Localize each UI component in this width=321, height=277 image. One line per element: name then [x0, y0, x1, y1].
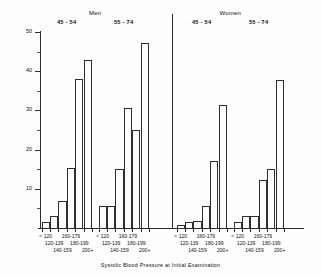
- bar: [84, 60, 92, 228]
- x-tick-label: 180-199: [258, 241, 284, 246]
- x-tick: [259, 228, 260, 232]
- bar: [115, 169, 123, 228]
- y-tick-30: [35, 110, 40, 111]
- x-tick: [75, 228, 76, 232]
- x-tick-label: 200+: [267, 248, 293, 253]
- y-tick-minor-25: [37, 130, 40, 131]
- bar: [58, 201, 66, 228]
- panel-divider: [172, 14, 173, 228]
- x-tick: [149, 228, 150, 232]
- x-tick: [234, 228, 235, 232]
- bar: [50, 216, 58, 228]
- x-tick-label: 140-159: [185, 248, 211, 253]
- x-tick-label: < 120: [225, 234, 251, 239]
- bar: [242, 216, 250, 228]
- x-tick: [107, 228, 108, 232]
- bar: [250, 216, 258, 228]
- x-tick: [267, 228, 268, 232]
- x-tick: [42, 228, 43, 232]
- bar: [219, 105, 227, 228]
- x-tick: [99, 228, 100, 232]
- y-tick-label-50: 50: [18, 29, 32, 34]
- age-group-men-55-74: 55 - 74: [104, 19, 144, 25]
- bar: [267, 169, 275, 228]
- y-tick-20: [35, 150, 40, 151]
- x-tick-label: < 120: [168, 234, 194, 239]
- x-tick: [67, 228, 68, 232]
- x-tick-label: 120-139: [98, 241, 124, 246]
- x-tick: [124, 228, 125, 232]
- x-tick: [58, 228, 59, 232]
- x-tick: [141, 228, 142, 232]
- x-tick-label: 140-159: [107, 248, 133, 253]
- x-tick-label: 120-139: [41, 241, 67, 246]
- x-tick-label: 160-179: [193, 234, 219, 239]
- x-tick-label: 120-139: [176, 241, 202, 246]
- bar: [42, 222, 50, 228]
- y-tick-minor-45: [37, 52, 40, 53]
- x-tick: [115, 228, 116, 232]
- x-tick-label: 120-139: [233, 241, 259, 246]
- x-tick: [177, 228, 178, 232]
- panel-title-women: Women: [205, 10, 255, 16]
- chart-figure: Men Women 45 - 54 55 - 74 45 - 54 55 - 7…: [0, 0, 321, 277]
- bar: [234, 222, 242, 228]
- bar: [75, 79, 83, 228]
- x-tick-label: 180-199: [66, 241, 92, 246]
- x-tick: [84, 228, 85, 232]
- x-tick-label: 200+: [75, 248, 101, 253]
- bar: [141, 43, 149, 228]
- bar: [210, 161, 218, 228]
- x-tick: [132, 228, 133, 232]
- x-tick: [219, 228, 220, 232]
- x-tick: [227, 228, 228, 232]
- x-tick-label: 180-199: [201, 241, 227, 246]
- panel-title-men: Men: [70, 10, 120, 16]
- x-tick: [185, 228, 186, 232]
- x-tick: [202, 228, 203, 232]
- x-tick-label: 160-179: [58, 234, 84, 239]
- x-tick: [250, 228, 251, 232]
- y-tick-minor-5: [37, 208, 40, 209]
- y-tick-40: [35, 71, 40, 72]
- bar: [107, 206, 115, 228]
- y-tick-label-10: 10: [18, 186, 32, 191]
- x-tick: [193, 228, 194, 232]
- y-axis-line: [40, 31, 41, 228]
- y-tick-label-40: 40: [18, 68, 32, 73]
- bar: [132, 130, 140, 228]
- bar: [99, 206, 107, 228]
- x-tick: [284, 228, 285, 232]
- x-tick-label: 200+: [210, 248, 236, 253]
- x-tick-label: 200+: [132, 248, 158, 253]
- bar: [185, 222, 193, 228]
- bar: [259, 180, 267, 228]
- x-tick-label: 160-179: [115, 234, 141, 239]
- age-group-women-45-54: 45 - 54: [182, 19, 222, 25]
- x-tick: [276, 228, 277, 232]
- x-tick-label: < 120: [90, 234, 116, 239]
- age-group-women-55-74: 55 - 74: [239, 19, 279, 25]
- bar: [193, 221, 201, 228]
- x-tick-label: 160-179: [250, 234, 276, 239]
- bar: [202, 206, 210, 228]
- x-tick: [210, 228, 211, 232]
- bar: [67, 168, 75, 228]
- x-tick-label: 180-199: [123, 241, 149, 246]
- bar: [177, 225, 185, 228]
- y-tick-minor-35: [37, 91, 40, 92]
- y-tick-label-30: 30: [18, 107, 32, 112]
- x-tick-label: 140-159: [50, 248, 76, 253]
- x-tick-label: < 120: [33, 234, 59, 239]
- x-axis-title: Systolic Blood Pressure at Initial Exami…: [0, 262, 321, 268]
- x-tick: [50, 228, 51, 232]
- age-group-men-45-54: 45 - 54: [47, 19, 87, 25]
- x-tick-label: 140-159: [242, 248, 268, 253]
- bar: [276, 80, 284, 228]
- x-tick: [242, 228, 243, 232]
- x-tick: [92, 228, 93, 232]
- x-axis-line: [38, 228, 304, 229]
- y-tick-50: [35, 32, 40, 33]
- bar: [124, 108, 132, 228]
- y-tick-10: [35, 189, 40, 190]
